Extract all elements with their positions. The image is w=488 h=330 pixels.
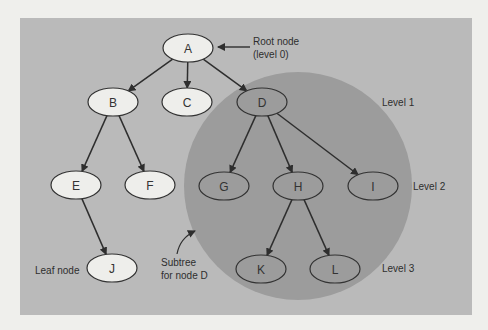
node-label: G — [219, 180, 228, 194]
edge-E-J — [82, 199, 106, 255]
node-I: I — [348, 172, 398, 200]
node-G: G — [199, 172, 249, 200]
edge-A-B — [128, 59, 172, 91]
level-2-label: Level 2 — [413, 181, 446, 192]
node-H: H — [273, 172, 323, 200]
tree-diagram: ABCDEFGHIJKL Root node (level 0) Level 1… — [0, 0, 488, 330]
node-D: D — [237, 88, 287, 116]
root-level-label: (level 0) — [253, 49, 289, 60]
node-J: J — [87, 254, 137, 282]
level-3-label: Level 3 — [382, 263, 415, 274]
leaf-node-label: Leaf node — [35, 265, 80, 276]
subtree-label-2: for node D — [161, 270, 208, 281]
subtree-pointer-arrow — [177, 231, 195, 254]
node-label: F — [146, 179, 153, 193]
node-label: J — [109, 262, 115, 276]
node-label: K — [257, 263, 265, 277]
edge-B-E — [82, 116, 107, 172]
node-label: C — [183, 96, 192, 110]
node-K: K — [236, 255, 286, 283]
node-C: C — [162, 88, 212, 116]
edge-A-D — [203, 59, 247, 91]
node-label: B — [109, 96, 117, 110]
node-label: H — [294, 180, 303, 194]
node-label: I — [371, 180, 374, 194]
node-L: L — [310, 255, 360, 283]
node-E: E — [51, 171, 101, 199]
level-1-label: Level 1 — [382, 97, 415, 108]
node-label: A — [184, 42, 192, 56]
node-label: E — [72, 179, 80, 193]
root-node-label: Root node — [253, 36, 300, 47]
node-B: B — [88, 88, 138, 116]
subtree-label: Subtree — [161, 257, 196, 268]
edge-B-F — [119, 116, 144, 172]
node-A: A — [163, 34, 213, 62]
node-label: L — [332, 263, 339, 277]
node-label: D — [258, 96, 267, 110]
node-F: F — [125, 171, 175, 199]
